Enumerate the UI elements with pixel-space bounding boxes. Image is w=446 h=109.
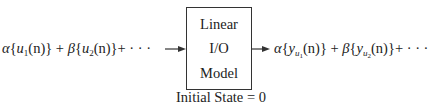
alpha-symbol: α — [274, 40, 282, 56]
linear-io-model-block: Linear I/O Model — [186, 7, 252, 90]
alpha-symbol: α — [2, 40, 10, 56]
input-expression: α{u1(n)} + β{u2(n)}+ · · · — [2, 40, 151, 58]
block-label-line2: I/O — [209, 40, 228, 57]
block-label-line3: Model — [200, 65, 238, 82]
beta-symbol: β — [342, 40, 349, 56]
input-ellipsis: + · · · — [118, 40, 152, 56]
initial-state-caption: Initial State = 0 — [0, 89, 446, 106]
output-arrow — [252, 46, 270, 52]
output-ellipsis: + · · · — [395, 40, 429, 56]
beta-symbol: β — [68, 40, 75, 56]
output-expression: α{yu1(n)} + β{yu2(n)}+ · · · — [274, 40, 428, 60]
u1-var: u — [17, 40, 24, 56]
input-arrow — [165, 46, 186, 52]
block-label-line1: Linear — [200, 16, 238, 33]
